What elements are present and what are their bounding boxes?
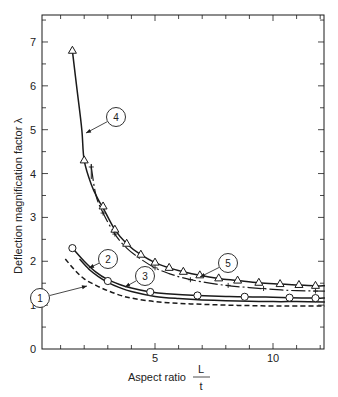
- y-tick-label: 6: [30, 80, 36, 92]
- x-tick-label: 5: [152, 352, 158, 364]
- triangle-marker: [68, 46, 76, 53]
- plus-marker: [188, 277, 193, 282]
- plus-marker: [226, 283, 231, 288]
- svg-text:5: 5: [225, 258, 231, 269]
- y-tick-label: 5: [30, 124, 36, 136]
- svg-text:4: 4: [113, 112, 119, 123]
- triangle-marker: [80, 156, 88, 163]
- circle-marker: [147, 288, 154, 295]
- svg-text:3: 3: [142, 271, 148, 282]
- x-tick-label: 10: [267, 352, 279, 364]
- svg-text:1: 1: [37, 293, 43, 304]
- circle-marker: [286, 294, 293, 301]
- circle-marker: [104, 277, 111, 284]
- circle-marker: [69, 245, 76, 252]
- svg-text:2: 2: [105, 254, 111, 265]
- circle-marker: [194, 292, 201, 299]
- triangle-marker: [255, 278, 263, 285]
- plus-marker: [261, 286, 266, 291]
- series-5-line: [91, 167, 325, 291]
- callout-4: 4: [86, 108, 126, 134]
- triangle-marker: [311, 281, 319, 288]
- x-axis-label-numerator: L: [198, 363, 204, 375]
- y-tick-label: 7: [30, 36, 36, 48]
- y-axis-label: Deflection magnification factor λ: [12, 118, 24, 274]
- x-axis-label: Aspect ratio: [128, 371, 186, 383]
- y-tick-label: 3: [30, 211, 36, 223]
- triangle-marker: [295, 280, 303, 287]
- y-tick-label: 2: [30, 255, 36, 267]
- deflection-chart: 510 01234567 12345 Deflection magnificat…: [0, 0, 338, 397]
- circle-marker: [241, 293, 248, 300]
- y-tick-label: 0: [30, 343, 36, 355]
- curve-callouts: 12345: [31, 108, 238, 308]
- x-axis-label-denominator: t: [199, 380, 202, 392]
- callout-3: 3: [125, 267, 155, 288]
- circle-marker: [312, 295, 319, 302]
- triangle-marker: [276, 280, 284, 287]
- plus-marker: [313, 289, 318, 294]
- y-tick-label: 4: [30, 168, 36, 180]
- x-axis-ticks: 510: [61, 15, 321, 364]
- callout-1: 1: [31, 285, 88, 307]
- callout-2: 2: [89, 250, 118, 269]
- plus-marker: [153, 265, 158, 270]
